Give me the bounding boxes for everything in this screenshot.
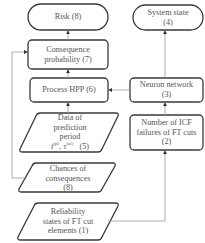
formula-t-sup: (p)	[53, 141, 59, 146]
formula-number: (5)	[80, 142, 90, 151]
chances-line-1: Chances of	[24, 164, 112, 174]
node-reliability-label: Reliability states of FT cut elements (1…	[24, 207, 112, 236]
system-state-line-1: System state	[133, 8, 203, 18]
node-risk-label: Risk (8)	[28, 12, 108, 22]
neuron-line-2: (3)	[130, 90, 203, 100]
reliability-line-3: elements (1)	[24, 226, 112, 236]
node-icf-failures-label: Number of ICF failures of FT cuts (2)	[130, 118, 203, 147]
icf-line-3: (2)	[130, 137, 203, 147]
node-neuron-network-label: Neuron network (3)	[130, 80, 203, 99]
node-consequence-probability-label: Consequence probability (7)	[28, 45, 108, 64]
chances-line-3: (8)	[24, 183, 112, 193]
reliability-line-2: states of FT cut	[24, 217, 112, 227]
formula-tau-sup: (ai)	[66, 141, 73, 146]
reliability-line-1: Reliability	[24, 207, 112, 217]
node-process-hpp-label: Process HPP (6)	[30, 85, 108, 95]
data-line-2: prediction	[26, 123, 114, 133]
node-data-prediction-label: Data of prediction period t(p), τ(ai) (5…	[26, 113, 114, 151]
system-state-line-2: (4)	[133, 18, 203, 28]
process-hpp-text: Process HPP (6)	[30, 85, 108, 95]
node-system-state-label: System state (4)	[133, 8, 203, 27]
consequence-line-1: Consequence	[28, 45, 108, 55]
chances-line-2: consequences	[24, 174, 112, 184]
icf-line-2: failures of FT cuts	[130, 128, 203, 138]
node-chances-label: Chances of consequences (8)	[24, 164, 112, 193]
data-formula: t(p), τ(ai) (5)	[26, 142, 114, 152]
neuron-line-1: Neuron network	[130, 80, 203, 90]
edge-1-to-2	[108, 151, 165, 221]
icf-line-1: Number of ICF	[130, 118, 203, 128]
risk-text: Risk (8)	[28, 12, 108, 22]
consequence-line-2: probability (7)	[28, 55, 108, 65]
edge-chances-to-7	[12, 52, 27, 178]
data-line-1: Data of	[26, 113, 114, 123]
